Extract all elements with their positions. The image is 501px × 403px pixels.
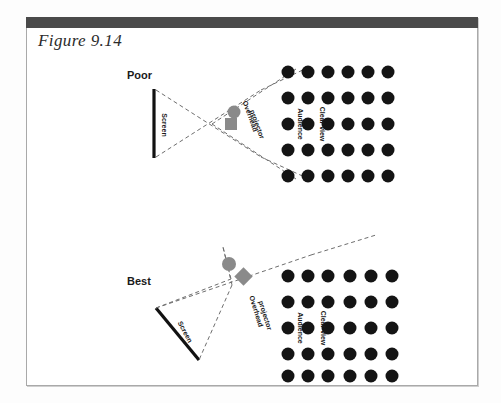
seat-dot [322,170,335,183]
seat-dot [344,322,357,335]
seat-dot [322,370,335,383]
panel-best: Best Screen Overhead projector [127,235,399,383]
panel-poor-label: Poor [127,69,153,81]
poor-clear-view-label: Clear view [319,107,326,142]
best-projector-head-icon [222,257,236,271]
seat-dot [282,270,295,283]
seat-dot [282,170,295,183]
seat-dot [382,66,395,79]
best-beam-a [156,279,231,308]
seat-dot [386,370,399,383]
seat-dot [322,348,335,361]
seat-dot [282,322,295,335]
seat-dot [365,370,378,383]
best-beam-f [311,235,376,255]
seat-dot [322,92,335,105]
best-projector-body-icon [234,267,252,285]
seat-dot [386,348,399,361]
seat-dot [382,92,395,105]
panel-poor: Poor Screen Overhead projector [127,66,395,183]
seat-dot [322,144,335,157]
figure-diagram: Poor Screen Overhead projector [26,17,478,386]
seat-dot [282,296,295,309]
seat-dot [365,348,378,361]
seat-dot [365,270,378,283]
seat-dot [342,118,355,131]
seat-dot [344,370,357,383]
seat-dot [344,348,357,361]
seat-dot [342,144,355,157]
seat-dot [342,92,355,105]
seat-dot [302,370,315,383]
seat-dot [302,170,315,183]
seat-dot [362,144,375,157]
seat-dot [362,92,375,105]
seat-dot [302,92,315,105]
seat-dot [302,66,315,79]
seat-dot [342,66,355,79]
best-screen-line [156,308,199,360]
seat-dot [386,270,399,283]
poor-projector-head-icon [228,106,241,119]
seat-dot [302,348,315,361]
seat-dot [362,170,375,183]
seat-dot [282,92,295,105]
seat-dot [344,270,357,283]
seat-dot [382,144,395,157]
seat-dot [322,296,335,309]
poor-screen-label: Screen [161,113,168,136]
seat-dot [282,348,295,361]
seat-dot [322,270,335,283]
poor-audience-label: Audience [297,108,304,140]
figure-page: Figure 9.14 Poor Screen Overhead project… [0,0,501,403]
seat-dot [302,296,315,309]
seat-dot [282,66,295,79]
seat-dot [382,118,395,131]
seat-dot [386,296,399,309]
poor-projector-body-icon [225,118,237,130]
seat-dot [282,144,295,157]
seat-dot [365,296,378,309]
seat-dot [322,66,335,79]
seat-dot [282,118,295,131]
panel-best-label: Best [127,275,151,287]
seat-dot [302,270,315,283]
best-audience-label: Audience [297,312,304,344]
seat-dot [365,322,378,335]
seat-dot [344,296,357,309]
seat-dot [282,370,295,383]
seat-dot [386,322,399,335]
seat-dot [362,118,375,131]
seat-dot [362,66,375,79]
seat-dot [382,170,395,183]
best-clear-view-label: Clear view [320,311,327,346]
best-beam-d [199,285,232,360]
seat-dot [302,144,315,157]
seat-dot [342,170,355,183]
best-screen-label: Screen [177,320,194,344]
